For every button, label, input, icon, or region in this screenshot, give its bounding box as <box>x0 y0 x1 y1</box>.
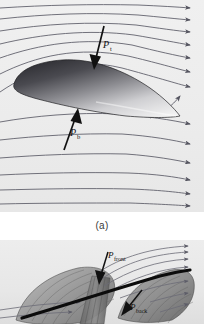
pressure-back-subscript: back <box>136 308 147 314</box>
panel-a-airfoil: P t P b <box>0 0 204 212</box>
panel-b-canvas: P front P back <box>0 240 204 324</box>
figure-root: P t P b (a) <box>0 0 204 324</box>
pressure-top-subscript: t <box>110 45 112 52</box>
panel-b-sailboat: P front P back <box>0 240 204 324</box>
caption-panel-a: (a) <box>0 212 204 238</box>
pressure-back-label: P <box>129 302 136 312</box>
pressure-front-subscript: front <box>114 256 126 262</box>
panel-a-canvas: P t P b <box>0 0 204 212</box>
pressure-front-label: P <box>107 250 114 260</box>
pressure-bottom-subscript: b <box>77 133 80 140</box>
pressure-top-label: P <box>102 39 109 50</box>
pressure-bottom-label: P <box>69 127 76 138</box>
